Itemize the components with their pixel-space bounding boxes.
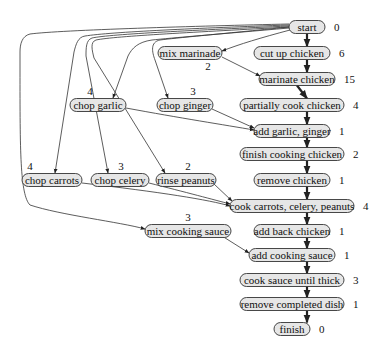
duration-label: 4	[87, 85, 93, 97]
node-label: mix marinade	[160, 47, 221, 59]
task-dependency-diagram: start0cut up chicken6mix marinade2marina…	[0, 0, 379, 351]
edge-rinse-peanuts-to-cook-carrots-celery-peanuts	[214, 184, 232, 201]
duration-label: 6	[339, 47, 345, 59]
duration-label: 3	[353, 274, 359, 286]
node-finish[interactable]: finish	[274, 323, 310, 336]
node-chop-carrots[interactable]: chop carrots	[22, 174, 82, 187]
node-marinate-chicken[interactable]: marinate chicken	[259, 73, 335, 86]
node-label: finish	[279, 323, 305, 335]
node-label: finish cooking chicken	[242, 148, 343, 160]
node-add-cooking-sauce[interactable]: add cooking sauce	[249, 249, 335, 262]
duration-label: 3	[185, 211, 191, 223]
node-label: rinse peanuts	[157, 174, 215, 186]
node-chop-celery[interactable]: chop celery	[91, 174, 149, 187]
edge-mix-marinade-to-marinate-chicken	[222, 57, 260, 76]
duration-label: 2	[205, 60, 211, 72]
node-label: cook sauce until thick	[244, 274, 341, 286]
duration-label: 15	[344, 73, 356, 85]
node-start[interactable]: start	[289, 21, 325, 34]
node-add-back-chicken[interactable]: add back chicken	[254, 225, 331, 238]
node-label: marinate chicken	[259, 73, 335, 85]
node-label: mix cooking sauce	[147, 225, 230, 237]
edge-mix-cooking-sauce-to-add-cooking-sauce	[222, 236, 249, 253]
node-label: cut up chicken	[260, 47, 325, 59]
node-partially-cook-chicken[interactable]: partially cook chicken	[240, 99, 344, 112]
node-mix-cooking-sauce[interactable]: mix cooking sauce	[145, 225, 231, 238]
duration-label: 3	[190, 85, 196, 97]
nodes-layer: start0cut up chicken6mix marinade2marina…	[22, 21, 369, 336]
node-chop-garlic[interactable]: chop garlic	[70, 99, 126, 112]
node-label: add back chicken	[254, 225, 331, 237]
node-label: start	[298, 21, 317, 33]
duration-label: 1	[344, 249, 350, 261]
duration-label: 4	[363, 200, 369, 212]
critical-edge	[297, 86, 307, 99]
duration-label: 1	[339, 125, 345, 137]
duration-label: 0	[334, 21, 340, 33]
duration-label: 3	[118, 160, 124, 172]
edge-start-to-chop-ginger	[153, 27, 289, 98]
node-label: remove chicken	[257, 174, 327, 186]
node-label: chop celery	[95, 174, 146, 186]
node-label: cook carrots, celery, peanuts	[230, 200, 355, 212]
edge-start-to-mix-cooking-sauce	[20, 24, 289, 229]
node-cook-carrots-celery-peanuts[interactable]: cook carrots, celery, peanuts	[230, 200, 355, 213]
node-remove-completed-dish[interactable]: remove completed dish	[240, 298, 344, 311]
edge-start-to-chop-garlic	[113, 28, 289, 98]
node-label: chop garlic	[73, 99, 122, 111]
node-remove-chicken[interactable]: remove chicken	[254, 174, 330, 187]
duration-label: 2	[353, 148, 359, 160]
duration-label: 4	[353, 99, 359, 111]
node-label: partially cook chicken	[243, 99, 341, 111]
duration-label: 1	[339, 174, 345, 186]
node-cut-up-chicken[interactable]: cut up chicken	[254, 47, 330, 60]
node-label: add cooking sauce	[251, 249, 332, 261]
duration-label: 1	[339, 225, 345, 237]
node-finish-cooking-chicken[interactable]: finish cooking chicken	[240, 148, 344, 161]
node-chop-ginger[interactable]: chop ginger	[157, 99, 213, 112]
duration-label: 2	[185, 160, 191, 172]
node-label: chop ginger	[159, 99, 212, 111]
duration-label: 4	[27, 160, 33, 172]
node-add-garlic-ginger[interactable]: add garlic, ginger	[253, 125, 331, 138]
duration-label: 0	[319, 323, 325, 335]
node-label: remove completed dish	[241, 298, 344, 310]
node-label: chop carrots	[25, 174, 79, 186]
duration-label: 1	[353, 298, 359, 310]
node-label: add garlic, ginger	[253, 125, 331, 137]
node-rinse-peanuts[interactable]: rinse peanuts	[156, 174, 216, 187]
node-cook-sauce-until-thick[interactable]: cook sauce until thick	[240, 274, 344, 287]
node-mix-marinade[interactable]: mix marinade	[158, 47, 222, 60]
